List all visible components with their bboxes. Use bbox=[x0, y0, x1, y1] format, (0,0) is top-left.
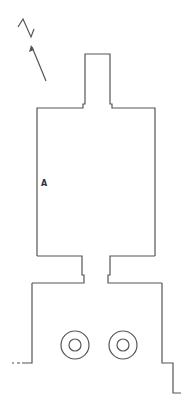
room-label-a: A bbox=[41, 179, 48, 188]
lower-hall-left-wall bbox=[22, 283, 32, 363]
north-letter-icon bbox=[18, 19, 34, 37]
main-hall-bottom-left bbox=[32, 256, 84, 283]
main-hall-bottom-right bbox=[108, 256, 162, 283]
column-left bbox=[61, 331, 89, 359]
outline-upper bbox=[37, 54, 155, 256]
floor-plan: A bbox=[0, 0, 194, 418]
lower-hall-right-wall bbox=[162, 283, 181, 393]
north-arrow-shaft bbox=[32, 47, 46, 81]
column-right bbox=[109, 331, 137, 359]
north-arrow bbox=[18, 19, 46, 81]
